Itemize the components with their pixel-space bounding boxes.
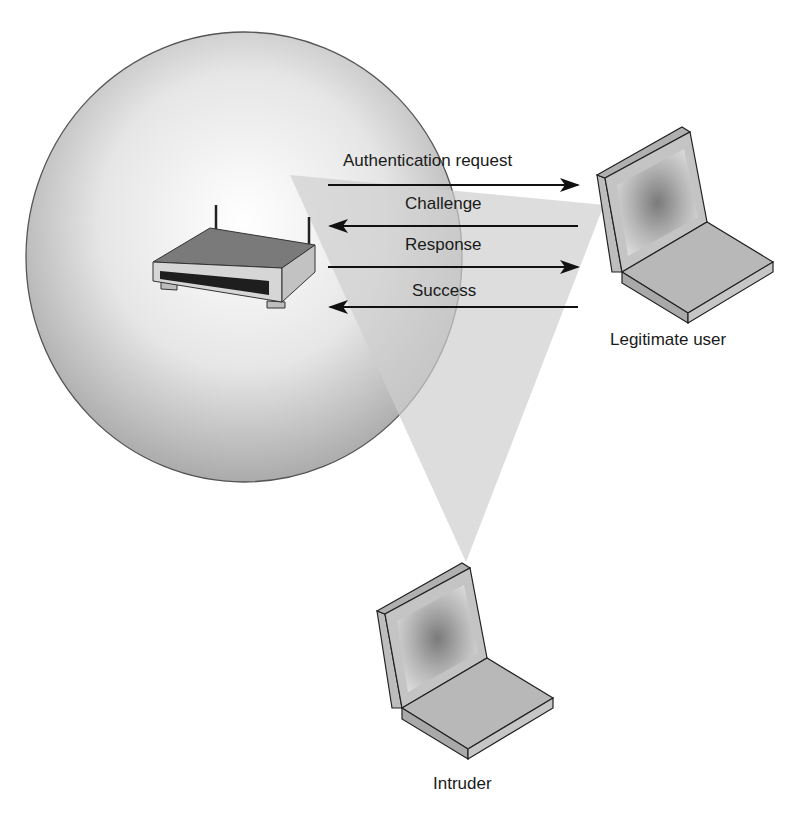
message-label-authentication-request: Authentication request	[343, 152, 512, 169]
diagram-canvas	[0, 0, 809, 813]
message-label-challenge: Challenge	[405, 195, 482, 212]
intruder-laptop-icon	[377, 563, 553, 759]
message-label-response: Response	[405, 236, 482, 253]
legitimate-user-label: Legitimate user	[610, 331, 726, 348]
legitimate-user-laptop-icon	[597, 127, 773, 323]
intruder-label: Intruder	[433, 775, 492, 792]
message-label-success: Success	[412, 282, 476, 299]
